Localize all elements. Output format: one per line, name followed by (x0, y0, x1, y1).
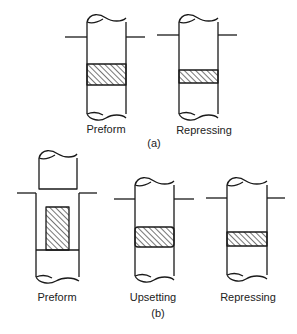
break-bottom (36, 276, 79, 283)
b-repressing-assembly (206, 178, 285, 281)
b-preform-assembly (17, 151, 97, 283)
preform-hatched (46, 207, 69, 250)
break-bottom (135, 275, 174, 282)
caption-a: (a) (147, 137, 160, 149)
b-upsetting-label: Upsetting (130, 291, 176, 303)
a-preform-assembly (65, 15, 145, 120)
compact-hatched (87, 64, 126, 85)
b-repressing-label: Repressing (220, 291, 276, 303)
rod-outline (179, 22, 218, 114)
break-top (135, 178, 174, 186)
break-top (179, 15, 218, 23)
upper-punch (39, 158, 77, 189)
compact-hatched (179, 70, 218, 83)
rod-outline (227, 185, 267, 275)
b-preform-label: Preform (37, 291, 76, 303)
caption-b: (b) (151, 307, 164, 319)
break-top (39, 151, 77, 159)
compact-hatched (227, 232, 267, 246)
break-top (87, 15, 126, 23)
a-preform-label: Preform (86, 123, 125, 135)
b-upsetting-assembly (114, 178, 194, 282)
a-repressing-assembly (157, 15, 237, 120)
break-bottom (179, 113, 218, 120)
a-repressing-label: Repressing (176, 124, 232, 136)
compact-hatched (135, 227, 174, 247)
diagram-canvas (0, 0, 297, 334)
break-bottom (227, 274, 267, 281)
break-bottom (87, 113, 126, 120)
break-top (227, 178, 267, 186)
